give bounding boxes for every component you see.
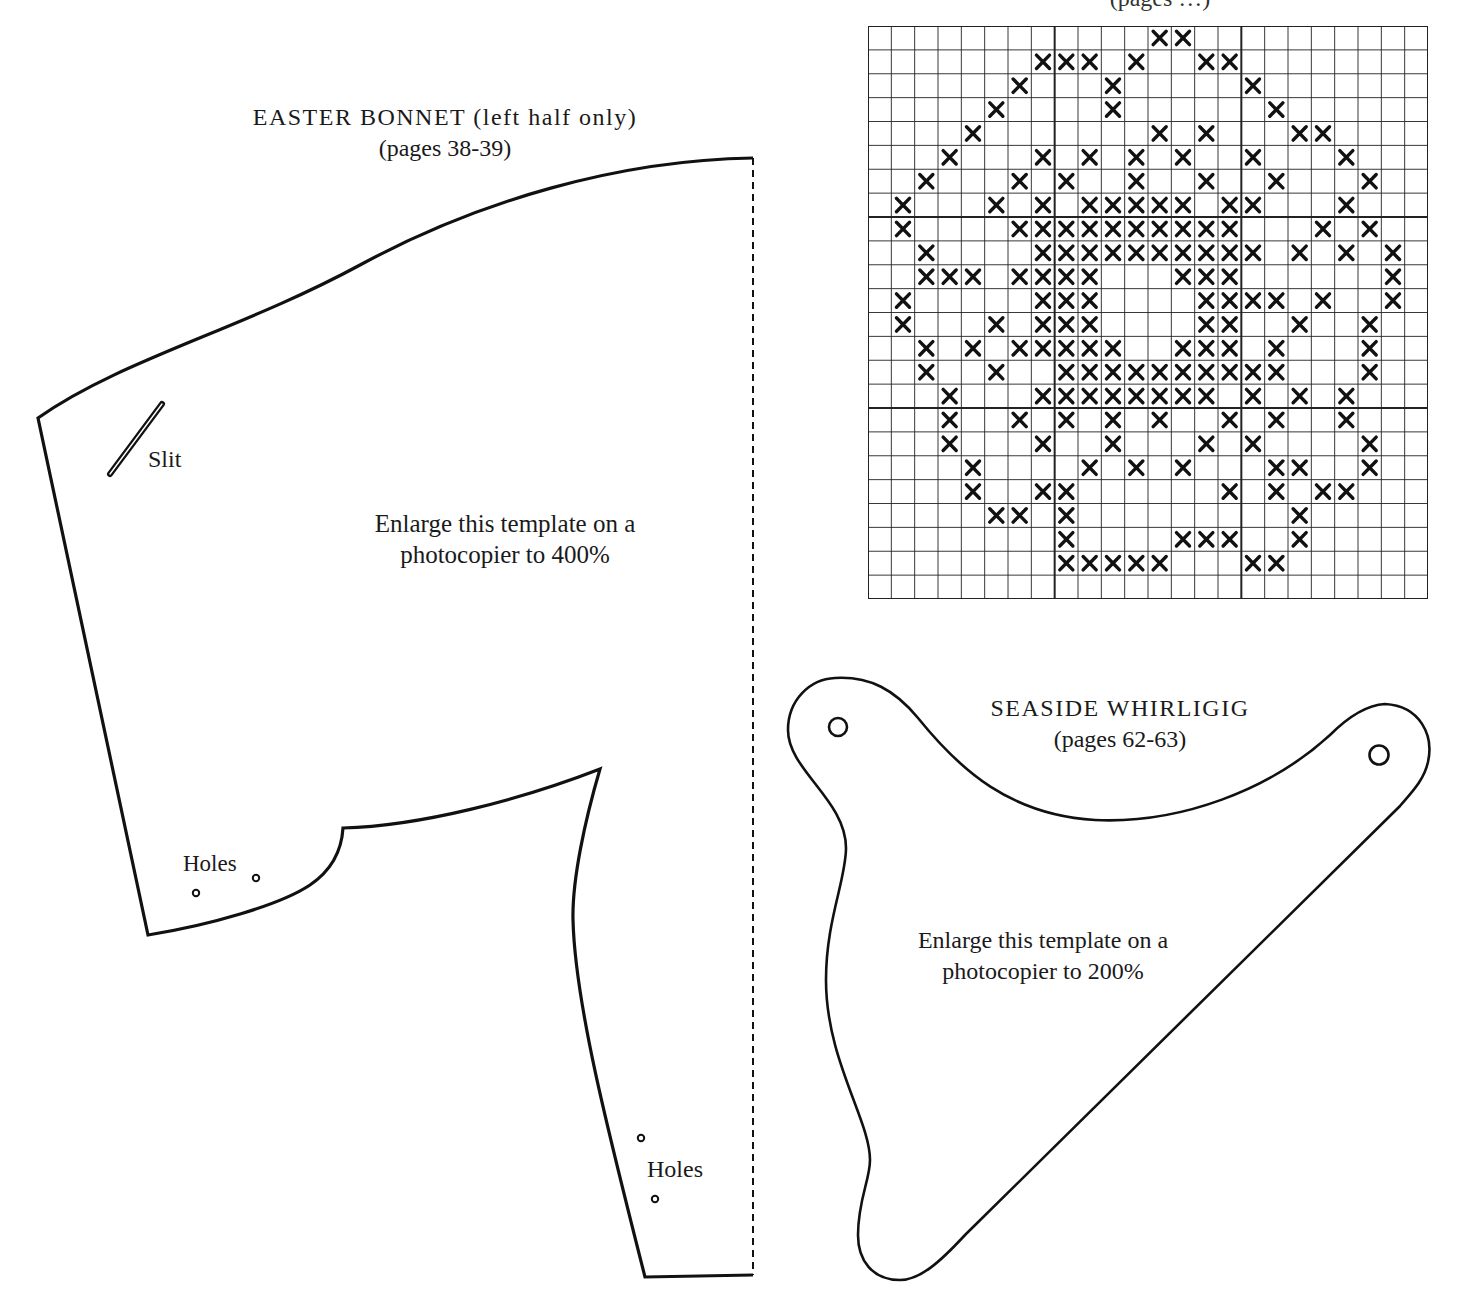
- hole-icon: [638, 1135, 644, 1141]
- stitch-x-icon: [1316, 127, 1329, 140]
- stitch-x-icon: [1363, 342, 1376, 355]
- stitch-x-icon: [943, 437, 956, 450]
- stitch-x-icon: [896, 294, 909, 307]
- stitch-x-icon: [1106, 246, 1119, 259]
- stitch-x-icon: [1200, 437, 1213, 450]
- stitch-x-icon: [1293, 533, 1306, 546]
- stitch-x-icon: [1060, 533, 1073, 546]
- stitch-x-icon: [1176, 461, 1189, 474]
- stitch-x-icon: [1316, 294, 1329, 307]
- stitch-x-icon: [1060, 175, 1073, 188]
- stitch-x-icon: [1060, 294, 1073, 307]
- stitch-x-icon: [1363, 366, 1376, 379]
- stitch-x-icon: [1013, 342, 1026, 355]
- stitch-x-icon: [1130, 198, 1143, 211]
- stitch-x-icon: [1106, 557, 1119, 570]
- stitch-x-icon: [1060, 222, 1073, 235]
- stitch-x-icon: [1083, 366, 1096, 379]
- stitch-x-icon: [1200, 127, 1213, 140]
- stitch-x-icon: [1083, 389, 1096, 402]
- stitch-x-icon: [1386, 246, 1399, 259]
- stitch-x-icon: [1013, 79, 1026, 92]
- stitch-x-icon: [1060, 557, 1073, 570]
- stitch-x-icon: [1270, 175, 1283, 188]
- stitch-x-icon: [1130, 389, 1143, 402]
- stitch-x-icon: [1246, 366, 1259, 379]
- stitch-x-icon: [1340, 246, 1353, 259]
- stitch-x-icon: [1083, 222, 1096, 235]
- stitch-x-icon: [1200, 270, 1213, 283]
- stitch-x-icon: [1223, 270, 1236, 283]
- stitch-x-icon: [1270, 294, 1283, 307]
- whirligig-title: SEASIDE WHIRLIGIG: [960, 694, 1280, 722]
- stitch-x-icon: [1060, 509, 1073, 522]
- stitch-x-icon: [1036, 222, 1049, 235]
- stitch-x-icon: [1200, 222, 1213, 235]
- stitch-x-icon: [1130, 175, 1143, 188]
- stitch-x-icon: [1363, 461, 1376, 474]
- holes-label-upper: Holes: [183, 850, 237, 877]
- stitch-x-icon: [1246, 294, 1259, 307]
- bonnet-outline: [38, 158, 753, 1277]
- stitch-x-icon: [1106, 198, 1119, 211]
- hole-icon: [1370, 746, 1389, 765]
- stitch-x-icon: [1153, 366, 1166, 379]
- stitch-x-icon: [1083, 55, 1096, 68]
- stitch-x-icon: [920, 342, 933, 355]
- stitch-x-icon: [1013, 413, 1026, 426]
- cross-stitch-grid: [868, 26, 1428, 599]
- stitch-x-icon: [1036, 318, 1049, 331]
- stitch-x-icon: [1293, 246, 1306, 259]
- stitch-x-icon: [1083, 557, 1096, 570]
- stitch-x-icon: [966, 342, 979, 355]
- stitch-x-icon: [1106, 366, 1119, 379]
- stitch-x-icon: [1200, 318, 1213, 331]
- stitch-x-icon: [1363, 175, 1376, 188]
- stitch-x-icon: [1106, 437, 1119, 450]
- stitch-x-icon: [1363, 222, 1376, 235]
- stitch-x-icon: [1386, 270, 1399, 283]
- stitch-x-icon: [1176, 342, 1189, 355]
- stitch-x-icon: [1153, 413, 1166, 426]
- stitch-x-icon: [1036, 389, 1049, 402]
- stitch-x-icon: [1083, 270, 1096, 283]
- stitch-x-icon: [1246, 246, 1259, 259]
- stitch-x-icon: [1223, 485, 1236, 498]
- stitch-x-icon: [966, 485, 979, 498]
- stitch-x-icon: [1013, 509, 1026, 522]
- stitch-x-icon: [1270, 342, 1283, 355]
- stitch-x-icon: [1060, 55, 1073, 68]
- stitch-x-icon: [1036, 342, 1049, 355]
- stitch-x-icon: [990, 103, 1003, 116]
- stitch-x-icon: [896, 318, 909, 331]
- bonnet-pages: (pages 38-39): [200, 134, 690, 162]
- stitch-x-icon: [1036, 294, 1049, 307]
- stitch-x-icon: [1060, 366, 1073, 379]
- stitch-x-icon: [1106, 342, 1119, 355]
- stitch-x-icon: [1083, 342, 1096, 355]
- stitch-x-icon: [920, 366, 933, 379]
- stitch-x-icon: [1060, 342, 1073, 355]
- stitch-x-icon: [943, 151, 956, 164]
- whirligig-instruction-line1: Enlarge this template on a: [868, 926, 1218, 954]
- stitch-x-icon: [1176, 533, 1189, 546]
- stitch-x-icon: [1130, 55, 1143, 68]
- stitch-x-icon: [1106, 389, 1119, 402]
- stitch-x-icon: [1200, 55, 1213, 68]
- stitch-x-icon: [1223, 55, 1236, 68]
- stitch-x-icon: [1083, 294, 1096, 307]
- stitch-x-icon: [1340, 198, 1353, 211]
- stitch-x-icon: [1316, 222, 1329, 235]
- stitch-x-icon: [990, 318, 1003, 331]
- stitch-x-icon: [896, 198, 909, 211]
- stitch-x-icon: [990, 198, 1003, 211]
- stitch-x-icon: [1060, 270, 1073, 283]
- stitch-x-icon: [1036, 246, 1049, 259]
- stitch-x-icon: [1246, 151, 1259, 164]
- stitch-x-icon: [1223, 222, 1236, 235]
- stitch-x-icon: [1270, 557, 1283, 570]
- stitch-x-icon: [1200, 366, 1213, 379]
- stitch-x-icon: [1270, 366, 1283, 379]
- stitch-x-icon: [966, 461, 979, 474]
- stitch-x-icon: [1036, 198, 1049, 211]
